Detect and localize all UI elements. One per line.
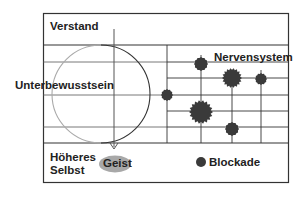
label-nervensystem: Nervensystem — [214, 51, 293, 64]
blockade-icon — [189, 100, 213, 124]
blockade-icon — [222, 68, 242, 88]
legend-blockade-icon — [196, 157, 206, 167]
blockade-icon — [161, 89, 173, 101]
subconscious-circle-right — [101, 45, 150, 143]
left-grid — [43, 62, 167, 127]
label-hoeheres: Höheres — [50, 151, 96, 164]
label-blockade-legend: Blockade — [209, 156, 260, 169]
blockade-icon — [194, 57, 208, 71]
blockades — [161, 57, 267, 136]
label-unterbewusstsein: Unterbewusstsein — [15, 79, 114, 92]
label-verstand: Verstand — [50, 20, 99, 33]
label-geist: Geist — [103, 157, 132, 170]
label-selbst: Selbst — [50, 164, 85, 177]
blockade-icon — [225, 122, 239, 136]
subconscious-circle-left — [52, 45, 101, 143]
blockade-icon — [255, 73, 267, 85]
